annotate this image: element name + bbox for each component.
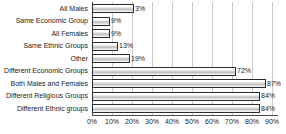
bar-value-label: 84%	[261, 92, 275, 100]
bar-row: All Males3%	[92, 4, 278, 13]
bar-value-label: 72%	[237, 67, 251, 75]
category-label: Different Ethnic groups	[17, 105, 88, 113]
bar-row: Different Religious Groups84%	[92, 92, 278, 101]
bar-row: Same Ethnic Groups13%	[92, 42, 278, 51]
category-label: Both Males and Females	[11, 80, 88, 88]
bar: 84%	[92, 104, 260, 113]
x-tick-70%: 70%	[225, 117, 239, 126]
category-label: Same Ethnic Groups	[23, 42, 88, 50]
bar-row: Other19%	[92, 54, 278, 63]
category-label: All Males	[60, 5, 88, 13]
x-tick-60%: 60%	[205, 117, 219, 126]
category-label: All Females	[51, 30, 88, 38]
x-tick-50%: 50%	[185, 117, 199, 126]
category-label: Different Religious Groups	[6, 92, 88, 100]
x-tick-20%: 20%	[125, 117, 139, 126]
x-tick-90%: 90%	[265, 117, 279, 126]
bar-value-label: 87%	[267, 80, 281, 88]
bar-row: Different Ethnic groups84%	[92, 104, 278, 113]
x-tick-40%: 40%	[165, 117, 179, 126]
bar: 3%	[92, 4, 134, 13]
x-tick-10%: 10%	[105, 117, 119, 126]
x-axis-line	[92, 115, 278, 116]
x-tick-80%: 80%	[245, 117, 259, 126]
category-label: Same Economic Group	[16, 17, 88, 25]
bar-value-label: 19%	[131, 55, 145, 63]
bar-chart: All Males3%Same Economic Group9%All Fema…	[0, 0, 286, 134]
x-tick-0%: 0%	[87, 117, 97, 126]
bar: 9%	[92, 29, 110, 38]
bar: 9%	[92, 17, 110, 26]
bar-value-label: 13%	[119, 42, 133, 50]
bar: 19%	[92, 54, 130, 63]
bar-value-label: 3%	[135, 5, 145, 13]
x-tick-30%: 30%	[145, 117, 159, 126]
plot-area: All Males3%Same Economic Group9%All Fema…	[92, 2, 278, 115]
bar-rows: All Males3%Same Economic Group9%All Fema…	[92, 2, 278, 115]
category-label: Other	[70, 55, 88, 63]
bar: 13%	[92, 42, 118, 51]
bar-row: Same Economic Group9%	[92, 17, 278, 26]
bar-row: Both Males and Females87%	[92, 79, 278, 88]
category-label: Different Economic Groups	[4, 67, 88, 75]
x-axis-tick-labels: 0%10%20%30%40%50%60%70%80%90%	[92, 117, 278, 131]
bar: 84%	[92, 92, 260, 101]
bar: 72%	[92, 67, 236, 76]
bar: 87%	[92, 79, 266, 88]
bar-value-label: 9%	[111, 30, 121, 38]
bar-row: All Females9%	[92, 29, 278, 38]
bar-value-label: 9%	[111, 17, 121, 25]
bar-value-label: 84%	[261, 105, 275, 113]
bar-row: Different Economic Groups72%	[92, 67, 278, 76]
